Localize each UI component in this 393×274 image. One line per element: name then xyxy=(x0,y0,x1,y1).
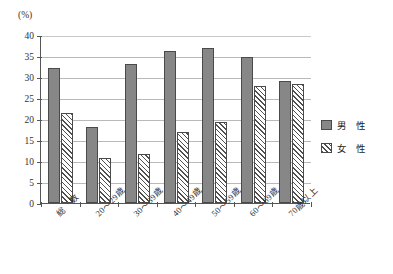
bar-male xyxy=(48,68,60,203)
y-axis-tick-label: 35 xyxy=(25,52,35,62)
legend-item-male: 男 性 xyxy=(321,118,366,132)
y-axis-tick xyxy=(37,141,42,142)
bar-male xyxy=(125,64,137,203)
plot-area: 0510152025303540 xyxy=(40,36,310,204)
y-axis-tick-label: 10 xyxy=(25,157,35,167)
x-axis-tick xyxy=(41,202,42,207)
y-axis-tick-label: 20 xyxy=(25,115,35,125)
bar-male xyxy=(279,81,291,203)
x-axis-tick xyxy=(195,202,196,207)
bar-male xyxy=(241,57,253,203)
y-axis-tick xyxy=(37,162,42,163)
y-axis-tick-label: 30 xyxy=(25,73,35,83)
legend-swatch-male-icon xyxy=(321,120,332,130)
x-axis-tick xyxy=(80,202,81,207)
bar-group xyxy=(86,35,111,203)
bar-group xyxy=(279,35,304,203)
x-axis-tick xyxy=(272,202,273,207)
y-axis-tick-label: 40 xyxy=(25,31,35,41)
y-axis-unit-label: (%) xyxy=(18,10,32,20)
bar-group xyxy=(125,35,150,203)
y-axis-tick xyxy=(37,183,42,184)
bar-female xyxy=(292,84,304,203)
bar-group xyxy=(48,35,73,203)
bar-female xyxy=(254,86,266,203)
bar-group xyxy=(241,35,266,203)
x-axis-tick xyxy=(118,202,119,207)
y-axis-tick xyxy=(37,57,42,58)
y-axis-tick xyxy=(37,120,42,121)
bar-male xyxy=(202,48,214,203)
bar-group xyxy=(202,35,227,203)
x-axis-tick xyxy=(234,202,235,207)
x-axis-tick xyxy=(157,202,158,207)
bar-male xyxy=(164,51,176,203)
y-axis-tick-label: 15 xyxy=(25,136,35,146)
y-axis-tick xyxy=(37,78,42,79)
bar-chart: (%) 0510152025303540 総 数20〜29歳30〜39歳40〜4… xyxy=(0,0,393,274)
y-axis-tick xyxy=(37,36,42,37)
legend-label-female: 女 性 xyxy=(337,141,366,155)
legend-swatch-female-icon xyxy=(321,143,332,153)
legend: 男 性 女 性 xyxy=(321,118,366,164)
y-axis-tick-label: 5 xyxy=(29,178,34,188)
bar-group xyxy=(164,35,189,203)
y-axis-tick-label: 25 xyxy=(25,94,35,104)
legend-item-female: 女 性 xyxy=(321,141,366,155)
bar-female xyxy=(61,113,73,203)
bar-male xyxy=(86,127,98,203)
y-axis-tick xyxy=(37,99,42,100)
legend-label-male: 男 性 xyxy=(337,118,366,132)
x-axis-tick xyxy=(311,202,312,207)
y-axis-tick-label: 0 xyxy=(29,199,34,209)
